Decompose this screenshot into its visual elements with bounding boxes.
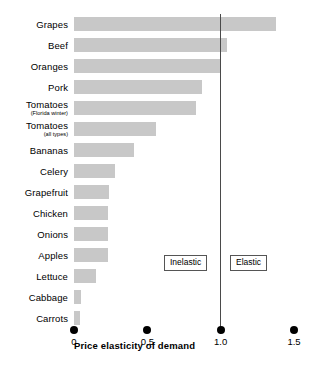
bar [74, 248, 108, 262]
bar-row: Cabbage [0, 287, 316, 308]
category-label: Apples [0, 245, 68, 266]
bar-row: Chicken [0, 203, 316, 224]
category-label: Grapefruit [0, 182, 68, 203]
category-label: Onions [0, 224, 68, 245]
x-axis-tick-label: 1.5 [274, 336, 314, 347]
bar-row: Grapes [0, 14, 316, 35]
category-label: Grapes [0, 14, 68, 35]
bar-row: Celery [0, 161, 316, 182]
x-axis-tick-label: 1.0 [201, 336, 241, 347]
category-label: Pork [0, 77, 68, 98]
x-axis-tick-dot [143, 326, 151, 334]
bar [74, 17, 276, 31]
category-label: Lettuce [0, 266, 68, 287]
bar [74, 185, 109, 199]
category-label: Celery [0, 161, 68, 182]
category-label-text: Bananas [30, 146, 68, 156]
category-label-text: Carrots [36, 314, 68, 324]
bar [74, 143, 134, 157]
bar-row: Oranges [0, 56, 316, 77]
bar [74, 38, 227, 52]
plot-area: GrapesBeefOrangesPorkTomatoes(Florida wi… [0, 0, 316, 373]
category-label-text: Lettuce [36, 272, 68, 282]
category-label-text: Grapes [36, 20, 68, 30]
legend-inelastic: Inelastic [164, 255, 207, 271]
category-label-text: Tomatoes [26, 121, 68, 131]
category-label: Oranges [0, 56, 68, 77]
category-label-text: Beef [48, 41, 68, 51]
category-label: Tomatoes(Florida winter) [0, 98, 68, 119]
bar-row: Apples [0, 245, 316, 266]
bar-row: Onions [0, 224, 316, 245]
bar [74, 206, 108, 220]
bar-row: Grapefruit [0, 182, 316, 203]
bar-row: Tomatoes(Florida winter) [0, 98, 316, 119]
category-label: Tomatoes(all types) [0, 119, 68, 140]
category-label-text: Chicken [33, 209, 68, 219]
category-sublabel-text: (Florida winter) [31, 111, 68, 117]
category-label-text: Cabbage [29, 293, 68, 303]
bar [74, 290, 81, 304]
bar-row: Beef [0, 35, 316, 56]
bar [74, 164, 115, 178]
category-label: Chicken [0, 203, 68, 224]
bar [74, 227, 108, 241]
bar-row: Bananas [0, 140, 316, 161]
category-label-text: Onions [37, 230, 68, 240]
bar [74, 122, 156, 136]
x-axis-tick-dot [290, 326, 298, 334]
x-axis-title: Price elasticity of demand [74, 340, 195, 351]
bar [74, 269, 96, 283]
bar-row: Pork [0, 77, 316, 98]
x-axis-tick-dot [217, 326, 225, 334]
category-label-text: Celery [40, 167, 68, 177]
category-label-text: Tomatoes [26, 100, 68, 110]
x-axis-tick-dot [70, 326, 78, 334]
bar [74, 80, 202, 94]
category-sublabel-text: (all types) [44, 132, 68, 138]
bar-row: Tomatoes(all types) [0, 119, 316, 140]
category-label: Beef [0, 35, 68, 56]
bar [74, 59, 221, 73]
category-label-text: Grapefruit [25, 188, 68, 198]
legend-elastic: Elastic [230, 255, 267, 271]
bar-row: Lettuce [0, 266, 316, 287]
category-label-text: Apples [38, 251, 68, 261]
category-label: Cabbage [0, 287, 68, 308]
category-label-text: Oranges [31, 62, 68, 72]
bar [74, 311, 80, 325]
category-label: Bananas [0, 140, 68, 161]
price-elasticity-chart: GrapesBeefOrangesPorkTomatoes(Florida wi… [0, 0, 316, 373]
unit-elasticity-reference-line [220, 14, 221, 334]
category-label-text: Pork [48, 83, 68, 93]
bar [74, 101, 196, 115]
